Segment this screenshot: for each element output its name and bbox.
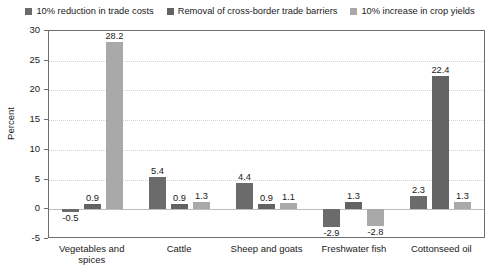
y-tick-label: 20 <box>29 84 40 94</box>
bar-value-label: 1.3 <box>195 191 208 201</box>
y-tick-label: -5 <box>32 233 40 243</box>
legend-item[interactable]: 10% increase in crop yields <box>350 6 474 16</box>
bar[interactable] <box>367 209 384 226</box>
bar-value-label: 22.4 <box>431 65 449 75</box>
y-tick-label: 25 <box>29 55 40 65</box>
y-tick-label: 30 <box>29 25 40 35</box>
plot-area: -0.50.928.25.40.91.34.40.91.1-2.91.3-2.8… <box>48 30 485 238</box>
x-axis-category-label: Cattle <box>135 243 222 265</box>
bar-slot: 4.4 <box>236 31 253 237</box>
y-tick-mark <box>44 238 48 239</box>
bar-slot: 5.4 <box>149 31 166 237</box>
bar-value-label: -2.9 <box>323 228 339 238</box>
x-axis-labels: Vegetables and spicesCattleSheep and goa… <box>48 243 485 265</box>
bar-value-label: 1.3 <box>456 191 469 201</box>
chart-legend: 10% reduction in trade costsRemoval of c… <box>0 6 500 16</box>
x-axis-category-label: Freshwater fish <box>310 243 397 265</box>
bar-slot: 2.3 <box>410 31 427 237</box>
bar-value-label: 1.3 <box>347 191 360 201</box>
bar[interactable] <box>106 42 123 210</box>
bar[interactable] <box>62 209 79 212</box>
bar-slot: 0.9 <box>84 31 101 237</box>
bar[interactable] <box>454 202 471 210</box>
bar-groups: -0.50.928.25.40.91.34.40.91.1-2.91.3-2.8… <box>49 31 484 237</box>
bar-value-label: 4.4 <box>238 172 251 182</box>
bar-slot: 1.1 <box>280 31 297 237</box>
bar-slot: -2.8 <box>367 31 384 237</box>
bar-group: 4.40.91.1 <box>223 31 310 237</box>
y-tick-label: 10 <box>29 144 40 154</box>
bar-slot: 1.3 <box>454 31 471 237</box>
bar[interactable] <box>149 177 166 209</box>
legend-swatch-icon <box>350 8 357 15</box>
y-tick-label: 5 <box>35 174 40 184</box>
legend-item-label: 10% increase in crop yields <box>361 6 474 16</box>
bar-value-label: 0.9 <box>260 193 273 203</box>
bar[interactable] <box>171 204 188 209</box>
bar-group: 5.40.91.3 <box>136 31 223 237</box>
x-axis-category-label: Vegetables and spices <box>48 243 135 265</box>
bar[interactable] <box>236 183 253 209</box>
bar[interactable] <box>193 202 210 210</box>
bar[interactable] <box>323 209 340 226</box>
y-tick-label: 0 <box>35 203 40 213</box>
bar-group: 2.322.41.3 <box>397 31 484 237</box>
bar-value-label: 0.9 <box>173 193 186 203</box>
y-axis: Percent 302520151050-5 <box>0 30 48 238</box>
bar-value-label: 2.3 <box>412 185 425 195</box>
bar[interactable] <box>432 76 449 209</box>
bar-slot: 1.3 <box>193 31 210 237</box>
bar[interactable] <box>410 196 427 210</box>
bar-group: -2.91.3-2.8 <box>310 31 397 237</box>
y-tick-label: 15 <box>29 114 40 124</box>
bar-slot: 0.9 <box>258 31 275 237</box>
bar[interactable] <box>258 204 275 209</box>
bar-value-label: -2.8 <box>367 227 383 237</box>
x-axis-category-label: Sheep and goats <box>223 243 310 265</box>
x-axis-category-label: Cottonseed oil <box>398 243 485 265</box>
legend-item[interactable]: Removal of cross-border trade barriers <box>167 6 338 16</box>
bar[interactable] <box>280 203 297 210</box>
legend-item[interactable]: 10% reduction in trade costs <box>25 6 153 16</box>
bar-group: -0.50.928.2 <box>49 31 136 237</box>
bar-slot: -2.9 <box>323 31 340 237</box>
bar-value-label: 5.4 <box>151 166 164 176</box>
bar-slot: 28.2 <box>106 31 123 237</box>
y-axis-title: Percent <box>5 88 16 160</box>
bar-slot: 22.4 <box>432 31 449 237</box>
bar-value-label: 0.9 <box>86 193 99 203</box>
bar-slot: 0.9 <box>171 31 188 237</box>
bar-value-label: -0.5 <box>62 213 78 223</box>
bar-slot: -0.5 <box>62 31 79 237</box>
bar-value-label: 28.2 <box>105 31 123 41</box>
bar[interactable] <box>345 202 362 210</box>
legend-swatch-icon <box>25 8 32 15</box>
legend-item-label: Removal of cross-border trade barriers <box>178 6 338 16</box>
bar[interactable] <box>84 204 101 209</box>
bar-value-label: 1.1 <box>282 192 295 202</box>
bar-slot: 1.3 <box>345 31 362 237</box>
legend-swatch-icon <box>167 8 174 15</box>
legend-item-label: 10% reduction in trade costs <box>36 6 153 16</box>
